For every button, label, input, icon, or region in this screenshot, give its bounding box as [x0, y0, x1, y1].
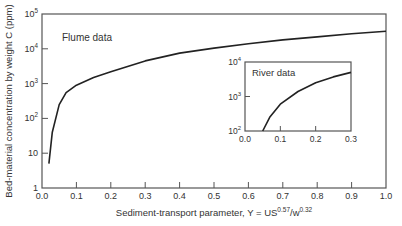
x-tick-label: 0.6	[242, 191, 255, 201]
x-tick-label: 0.3	[139, 191, 152, 201]
y-tick-label: 104	[228, 56, 241, 67]
x-tick-label: 0.8	[311, 191, 324, 201]
annotation-label: Flume data	[62, 32, 112, 43]
x-tick-label: 0.3	[345, 134, 357, 144]
x-axis-label: Sediment-transport parameter, Y = US0.57…	[116, 206, 313, 218]
x-tick-label: 0.2	[105, 191, 118, 201]
x-tick-label: 0.0	[239, 134, 251, 144]
x-tick-label: 0.2	[310, 134, 322, 144]
chart: 0.00.10.20.30.40.50.60.70.80.91.01101021…	[0, 0, 402, 226]
y-tick-label: 104	[24, 42, 38, 54]
x-tick-label: 0.7	[277, 191, 290, 201]
x-tick-label: 0.9	[345, 191, 358, 201]
x-tick-label: 0.1	[274, 134, 286, 144]
y-tick-label: 103	[228, 91, 241, 102]
y-tick-label: 102	[24, 111, 38, 123]
x-tick-label: 1.0	[380, 191, 393, 201]
x-tick-label: 0.4	[173, 191, 186, 201]
annotation-label: River data	[252, 67, 296, 78]
inset-plot: 0.00.10.20.3102103104River data	[228, 56, 357, 144]
y-tick-label: 1	[33, 183, 38, 193]
y-tick-label: 10	[28, 148, 38, 158]
y-axis-label: Bed-material concentration by weight C (…	[3, 4, 14, 197]
y-tick-label: 103	[24, 77, 38, 89]
y-tick-label: 105	[24, 7, 38, 19]
x-tick-label: 0.1	[70, 191, 83, 201]
x-tick-label: 0.5	[208, 191, 221, 201]
